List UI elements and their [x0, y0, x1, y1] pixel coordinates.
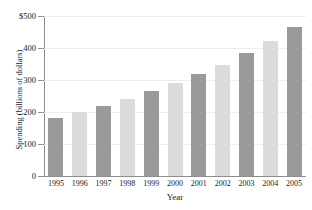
bar: [239, 53, 254, 176]
x-axis-tick-label: 2005: [279, 180, 309, 188]
y-axis-tick: [38, 176, 44, 177]
bar: [96, 106, 111, 176]
bar: [48, 118, 63, 176]
plot-area: [44, 16, 306, 176]
y-axis-tick-label: 400: [2, 44, 36, 53]
cropped-title-remnant: [120, 0, 230, 4]
bar: [191, 74, 206, 176]
y-axis-tick-label: 300: [2, 76, 36, 85]
bar-chart-figure: Spending (billions of dollars) 010020030…: [0, 0, 312, 210]
y-axis-tick-label: 200: [2, 108, 36, 117]
bar: [120, 99, 135, 176]
y-axis-tick-label: 100: [2, 140, 36, 149]
bar: [287, 27, 302, 176]
gridline: [44, 16, 306, 17]
bar: [144, 91, 159, 176]
bar: [215, 65, 230, 176]
bar: [72, 112, 87, 176]
bar: [168, 83, 183, 176]
x-axis-title: Year: [44, 193, 306, 202]
x-axis-line: [44, 176, 306, 177]
y-axis-tick-label: 0: [2, 172, 36, 181]
bar: [263, 41, 278, 176]
y-axis-tick-label: $500: [2, 12, 36, 21]
